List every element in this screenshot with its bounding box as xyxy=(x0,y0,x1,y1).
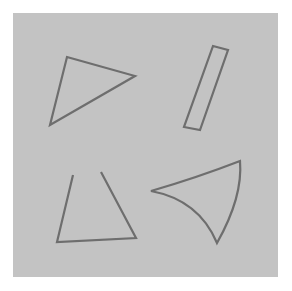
gray-panel xyxy=(13,13,278,277)
shape-canvas xyxy=(0,0,292,291)
figure-root xyxy=(0,0,292,291)
